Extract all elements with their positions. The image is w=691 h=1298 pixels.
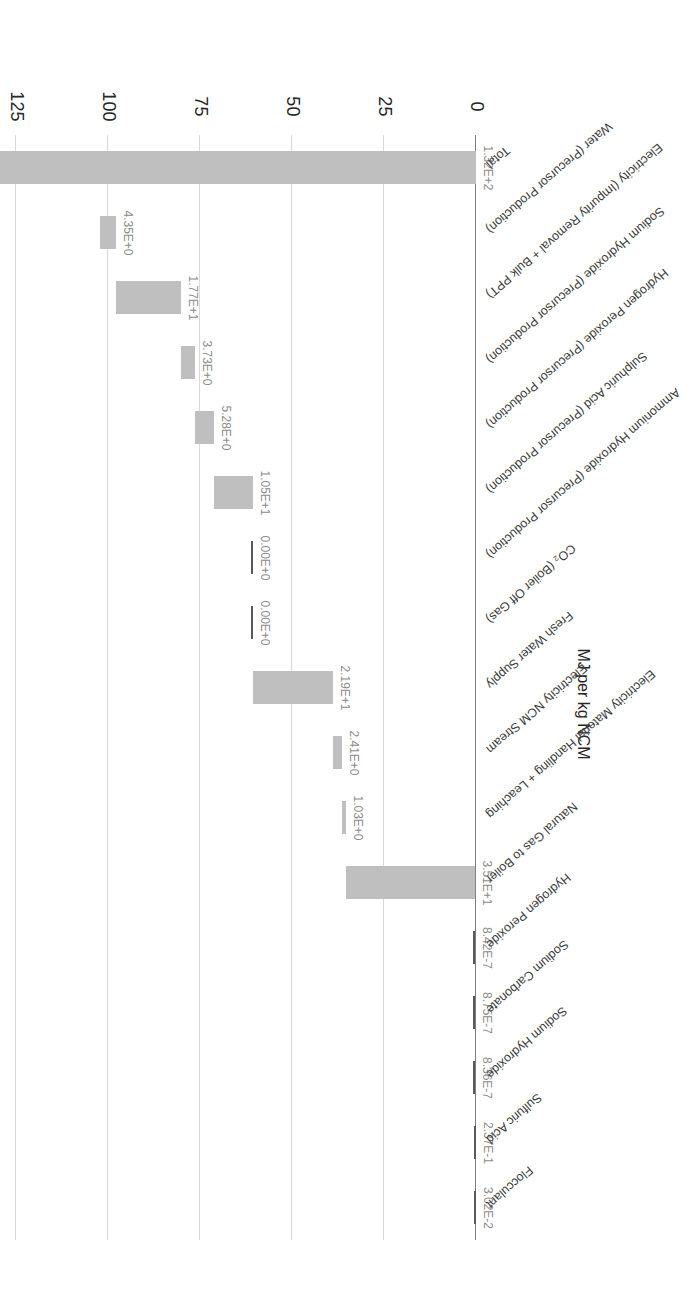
- waterfall-bar: [251, 606, 253, 640]
- value-tick-label: 125: [6, 82, 27, 132]
- value-tick-label: 100: [98, 82, 119, 132]
- waterfall-bar: [195, 411, 214, 445]
- gridline: [383, 135, 384, 1240]
- value-tick-label: 0: [466, 82, 487, 132]
- waterfall-bar: [473, 996, 475, 1030]
- value-tick-label: 75: [190, 82, 211, 132]
- waterfall-bar: [342, 801, 346, 835]
- bar-value-label: 5.28E+0: [219, 394, 233, 464]
- waterfall-bar: [100, 216, 116, 250]
- plot-area: [16, 135, 476, 1240]
- total-bar: [0, 151, 476, 185]
- bar-value-label: 0.00E+0: [258, 589, 272, 659]
- value-axis-title: MJ per kg NCM: [574, 614, 592, 794]
- waterfall-bar: [181, 346, 195, 380]
- bar-value-label: 1.77E+1: [186, 264, 200, 334]
- value-axis-line: [475, 135, 476, 1240]
- waterfall-bar: [253, 671, 334, 705]
- waterfall-bar: [214, 476, 253, 510]
- bar-value-label: 1.05E+1: [258, 459, 272, 529]
- value-tick-label: 50: [282, 82, 303, 132]
- waterfall-bar: [474, 1126, 476, 1160]
- waterfall-bar: [473, 1061, 475, 1095]
- gridline: [15, 135, 16, 1240]
- waterfall-bar: [251, 541, 253, 575]
- waterfall-bar: [116, 281, 181, 315]
- bar-value-label: 2.19E+1: [338, 654, 352, 724]
- value-tick-label: 25: [374, 82, 395, 132]
- bar-value-label: 0.00E+0: [258, 524, 272, 594]
- gridline: [107, 135, 108, 1240]
- bar-value-label: 2.41E+0: [347, 719, 361, 789]
- waterfall-bar: [346, 866, 475, 900]
- waterfall-bar: [333, 736, 342, 770]
- category-label: Sulphuric Acid (Precursor Production): [483, 349, 649, 496]
- category-label: Sodium Hydroxide: [483, 1004, 569, 1082]
- category-label: Water (Precursor Production): [483, 120, 615, 237]
- waterfall-bar: [473, 931, 475, 965]
- bar-value-label: 3.73E+0: [200, 329, 214, 399]
- bar-value-label: 4.35E+0: [121, 199, 135, 269]
- rotated-figure-wrapper: MJ per kg NCM 02550751001253.02E-2Floccu…: [0, 0, 691, 1298]
- bar-value-label: 1.03E+0: [351, 784, 365, 854]
- waterfall-bar: [474, 1191, 476, 1225]
- waterfall-chart: MJ per kg NCM 02550751001253.02E-2Floccu…: [0, 0, 691, 1298]
